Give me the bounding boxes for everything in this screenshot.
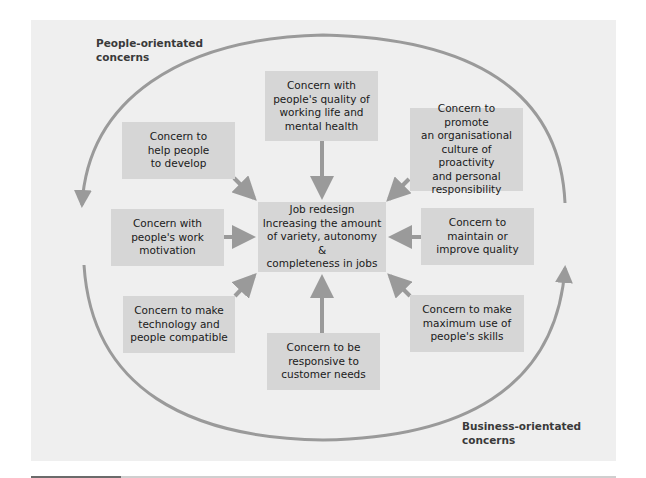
concern-maintain-quality: Concern to maintain or improve quality <box>421 208 534 265</box>
concern-quality-of-working-life: Concern with people's quality of working… <box>265 71 378 141</box>
concern-help-develop: Concern to help people to develop <box>122 122 235 179</box>
people-orientated-label: People-orientated concerns <box>96 37 203 64</box>
concern-technology-compatible: Concern to make technology and people co… <box>123 296 235 353</box>
concern-customer-needs: Concern to be responsive to customer nee… <box>267 333 380 390</box>
job-redesign-center: Job redesign Increasing the amount of va… <box>258 202 386 272</box>
arrow-icon <box>235 276 254 296</box>
arrow-icon <box>389 179 409 199</box>
arrow-icon <box>390 276 410 296</box>
business-orientated-label: Business-orientated concerns <box>462 420 581 447</box>
arrow-icon <box>234 178 254 198</box>
concern-work-motivation: Concern with people's work motivation <box>111 209 224 266</box>
job-redesign-text: Increasing the amount of variety, autono… <box>262 217 382 271</box>
concern-proactivity-culture: Concern to promote an organisational cul… <box>410 108 523 191</box>
concern-maximum-skills: Concern to make maximum use of people's … <box>410 295 524 352</box>
job-redesign-title: Job redesign <box>290 203 355 217</box>
